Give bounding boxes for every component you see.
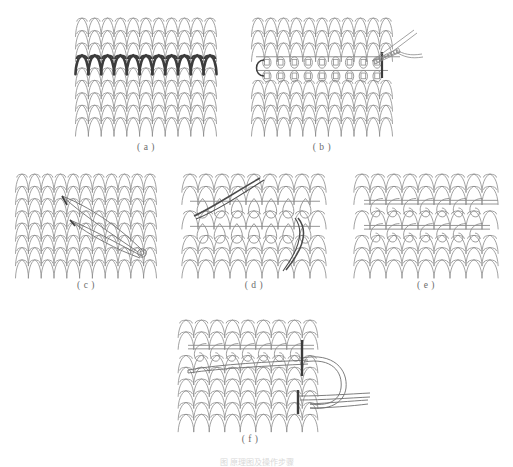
panel-d-label: ( d ) bbox=[186, 280, 322, 290]
panel-c: ( c ) bbox=[18, 172, 154, 276]
panel-a-knit-ground bbox=[75, 18, 216, 136]
panel-f-drawing bbox=[182, 318, 372, 430]
panel-e-knit-ground bbox=[354, 174, 498, 278]
panel-f-open-loops bbox=[188, 344, 314, 362]
panel-a-label: ( a ) bbox=[78, 142, 214, 152]
panel-b-drawing bbox=[254, 16, 434, 138]
panel-a: ( a ) bbox=[78, 16, 214, 138]
panel-e-drawing bbox=[358, 172, 494, 276]
figure-caption: 图 原理图及操作步骤 bbox=[0, 456, 513, 467]
panel-d-drawing bbox=[186, 172, 322, 276]
panel-f-knit-ground bbox=[178, 320, 318, 432]
panel-f: ( f ) bbox=[182, 318, 372, 430]
panel-c-knit-ground bbox=[15, 174, 156, 278]
panel-e-label: ( e ) bbox=[358, 280, 494, 290]
panel-b-label: ( b ) bbox=[254, 142, 390, 152]
panel-f-label: ( f ) bbox=[182, 434, 318, 444]
panel-e: ( e ) bbox=[358, 172, 494, 276]
panel-a-damaged-course bbox=[75, 55, 216, 74]
panel-b: ( b ) bbox=[254, 16, 434, 138]
panel-c-drawing bbox=[18, 172, 154, 276]
panel-b-knit-ground bbox=[251, 18, 392, 136]
panel-d: ( d ) bbox=[186, 172, 322, 276]
panel-f-drawn-loop bbox=[300, 357, 370, 409]
panel-c-label: ( c ) bbox=[18, 280, 154, 290]
panel-a-drawing bbox=[78, 16, 214, 138]
